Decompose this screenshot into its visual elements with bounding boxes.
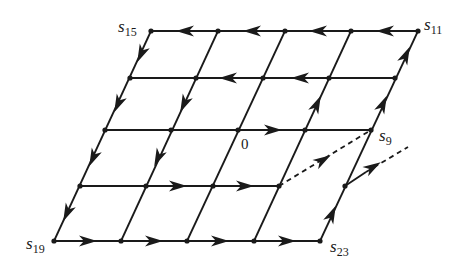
arrowhead-icon (84, 148, 102, 169)
arrowhead-icon (58, 203, 76, 224)
edge (254, 31, 351, 241)
arrowhead-icon (109, 94, 127, 115)
node (317, 238, 322, 243)
node (342, 183, 347, 188)
arrowhead-icon (132, 44, 150, 65)
node (276, 183, 281, 188)
label-s23: s23 (330, 238, 349, 255)
arrowhead-icon (149, 148, 167, 169)
label-s9: s9 (379, 127, 392, 144)
arrowhead-icon (397, 45, 415, 66)
arrowhead-icon (374, 94, 392, 115)
node (368, 127, 373, 132)
node (348, 28, 353, 33)
node (210, 183, 215, 188)
node (127, 75, 132, 80)
node (148, 28, 153, 33)
node (251, 238, 256, 243)
arrowhead-icon (175, 94, 193, 115)
arrowhead-icon (308, 94, 326, 115)
node (77, 183, 82, 188)
edge (187, 31, 285, 241)
node (302, 127, 307, 132)
node (415, 28, 420, 33)
lattice-diagram (0, 0, 474, 270)
label-s11: s11 (424, 16, 442, 33)
label-s15: s15 (118, 18, 137, 35)
solid-edges (54, 31, 418, 241)
node (51, 238, 56, 243)
node (260, 75, 265, 80)
arrowhead-icon (362, 158, 383, 177)
origin-label: 0 (241, 137, 249, 152)
node (193, 75, 198, 80)
node (184, 238, 189, 243)
node (102, 127, 107, 132)
node (168, 127, 173, 132)
arrowhead-icon (323, 204, 341, 225)
node (143, 183, 148, 188)
label-s19: s19 (26, 235, 45, 252)
node (215, 28, 220, 33)
node (392, 75, 397, 80)
node (235, 127, 240, 132)
arrowhead-icon (312, 151, 333, 170)
node (282, 28, 287, 33)
node (326, 75, 331, 80)
node (118, 238, 123, 243)
